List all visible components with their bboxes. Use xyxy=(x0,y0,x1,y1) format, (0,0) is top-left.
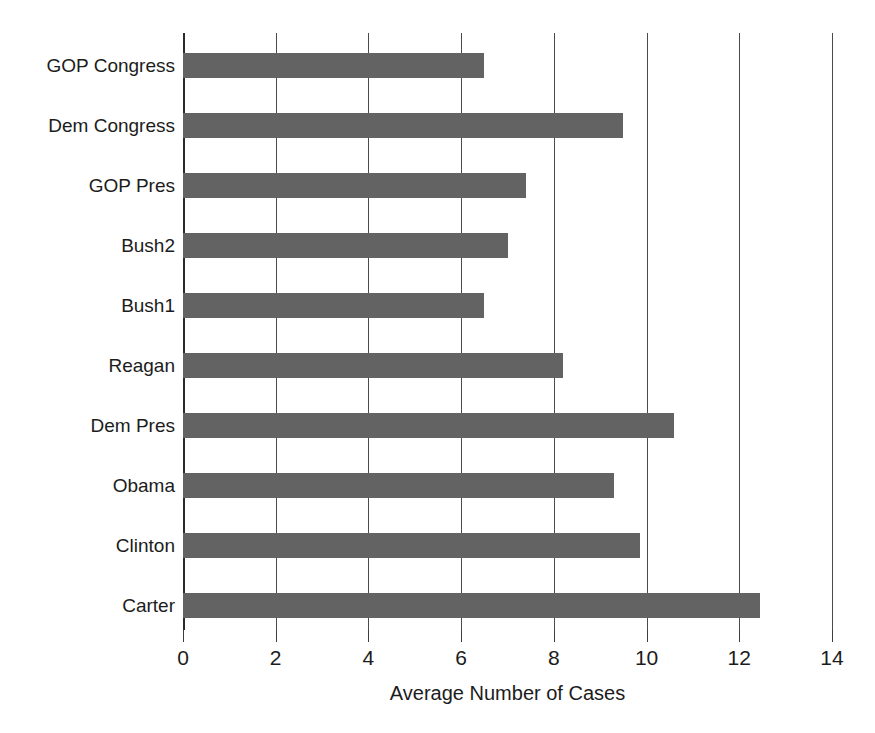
bar-bush2 xyxy=(183,233,508,258)
bar-fill xyxy=(183,593,760,618)
bar-fill xyxy=(183,533,640,558)
gridline-x-10 xyxy=(647,33,648,630)
tick-mark-0 xyxy=(183,630,184,642)
tick-label-6: 6 xyxy=(455,645,467,671)
category-label-gop-pres: GOP Pres xyxy=(89,173,175,198)
bar-carter xyxy=(183,593,760,618)
tick-mark-4 xyxy=(368,630,369,642)
bar-gop-pres xyxy=(183,173,526,198)
gridline-x-14 xyxy=(832,33,833,630)
bar-fill xyxy=(183,173,526,198)
category-label-obama: Obama xyxy=(113,473,175,498)
category-label-clinton: Clinton xyxy=(116,533,175,558)
plot-area xyxy=(183,33,832,630)
category-label-bush1: Bush1 xyxy=(121,293,175,318)
category-label-carter: Carter xyxy=(122,593,175,618)
bar-fill xyxy=(183,113,623,138)
tick-mark-8 xyxy=(554,630,555,642)
category-label-reagan: Reagan xyxy=(108,353,175,378)
bar-chart: GOP Congress Dem Congress GOP Pres Bush2… xyxy=(0,0,875,733)
bar-fill xyxy=(183,353,563,378)
tick-label-0: 0 xyxy=(177,645,189,671)
x-axis-tick-marks xyxy=(183,630,832,642)
bar-reagan xyxy=(183,353,563,378)
bar-fill xyxy=(183,293,484,318)
tick-label-14: 14 xyxy=(820,645,843,671)
x-axis-title: Average Number of Cases xyxy=(183,682,832,705)
category-label-dem-pres: Dem Pres xyxy=(91,413,175,438)
tick-label-12: 12 xyxy=(728,645,751,671)
bar-fill xyxy=(183,473,614,498)
category-label-gop-congress: GOP Congress xyxy=(47,53,175,78)
tick-mark-6 xyxy=(461,630,462,642)
gridline-x-12 xyxy=(739,33,740,630)
x-axis-tick-labels: 02468101214 xyxy=(183,645,832,675)
tick-label-4: 4 xyxy=(363,645,375,671)
tick-label-2: 2 xyxy=(270,645,282,671)
bar-fill xyxy=(183,53,484,78)
bar-fill xyxy=(183,413,674,438)
bar-clinton xyxy=(183,533,640,558)
y-axis-category-labels: GOP Congress Dem Congress GOP Pres Bush2… xyxy=(0,33,175,630)
bar-dem-congress xyxy=(183,113,623,138)
category-label-bush2: Bush2 xyxy=(121,233,175,258)
bar-bush1 xyxy=(183,293,484,318)
bar-gop-congress xyxy=(183,53,484,78)
bar-dem-pres xyxy=(183,413,674,438)
tick-mark-2 xyxy=(276,630,277,642)
tick-label-8: 8 xyxy=(548,645,560,671)
tick-mark-14 xyxy=(832,630,833,642)
bar-obama xyxy=(183,473,614,498)
tick-label-10: 10 xyxy=(635,645,658,671)
tick-mark-10 xyxy=(647,630,648,642)
category-label-dem-congress: Dem Congress xyxy=(48,113,175,138)
bar-fill xyxy=(183,233,508,258)
tick-mark-12 xyxy=(739,630,740,642)
